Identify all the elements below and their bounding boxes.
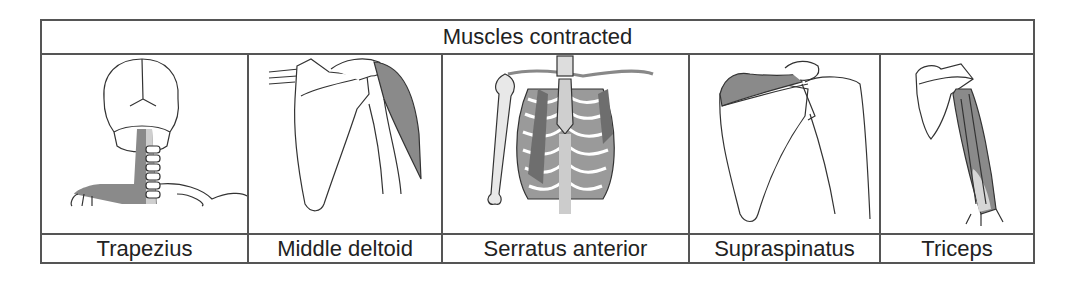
column-middle-deltoid: Middle deltoid [249, 54, 443, 262]
trapezius-illustration [42, 54, 247, 235]
column-trapezius: Trapezius [42, 54, 249, 262]
supraspinatus-illustration [690, 54, 879, 235]
triceps-illustration [881, 54, 1033, 235]
muscles-table: Muscles contracted [40, 19, 1035, 264]
label-trapezius: Trapezius [42, 234, 247, 262]
label-serratus-anterior: Serratus anterior [443, 234, 688, 262]
column-serratus-anterior: Serratus anterior [443, 54, 690, 262]
label-supraspinatus: Supraspinatus [690, 234, 879, 262]
column-supraspinatus: Supraspinatus [690, 54, 881, 262]
label-triceps: Triceps [881, 234, 1033, 262]
middle-deltoid-illustration [249, 54, 441, 235]
column-triceps: Triceps [881, 54, 1033, 262]
table-header: Muscles contracted [42, 21, 1033, 55]
label-middle-deltoid: Middle deltoid [249, 234, 441, 262]
serratus-anterior-illustration [443, 54, 688, 235]
